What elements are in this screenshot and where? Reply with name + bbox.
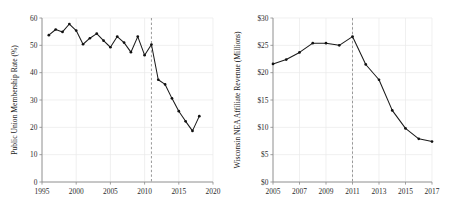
data-point [157,78,160,81]
data-point [82,43,85,46]
y-tick-label: 50 [30,41,38,50]
x-tick-label: 2010 [137,187,152,196]
y-tick-label: 40 [30,68,38,77]
data-point [123,41,126,44]
data-point [325,42,328,45]
data-point [298,51,301,54]
data-point [338,44,341,47]
data-point [285,58,288,61]
x-tick-label: 2015 [398,187,413,196]
data-point [378,78,381,81]
y-tick-label: $10 [257,123,268,132]
data-point [404,127,407,130]
x-tick-label: 2017 [425,187,440,196]
y-tick-label: 10 [30,150,38,159]
data-point [431,140,434,143]
data-point [272,63,275,66]
data-point [171,97,174,100]
data-point [198,115,201,118]
y-tick-label: $25 [257,41,268,50]
data-point [109,46,112,49]
chart-panel-left: 0102030405060199520002005201020152020Pub… [0,0,225,215]
data-point [136,35,139,38]
data-point [130,51,133,54]
data-point [391,109,394,112]
y-tick-label: $0 [261,178,269,187]
data-point [54,28,57,31]
data-point [311,42,314,45]
chart-svg: 0102030405060199520002005201020152020Pub… [0,0,225,215]
data-point [102,39,105,42]
y-tick-label: 20 [30,123,38,132]
data-point [116,35,119,38]
y-axis-title: Wisconsin NEA Affiliate Revenue (Million… [233,31,242,169]
data-point [89,37,92,40]
x-tick-label: 2013 [372,187,387,196]
y-tick-label: $5 [261,150,269,159]
data-point [143,54,146,57]
data-point [364,63,367,66]
y-tick-label: $30 [257,14,268,23]
data-point [95,32,98,35]
chart-svg: $0$5$10$15$20$25$30200520072009201120132… [225,0,450,215]
x-tick-label: 2015 [171,187,186,196]
x-tick-label: 2011 [345,187,360,196]
x-tick-label: 1995 [35,187,50,196]
data-point [75,29,78,32]
plot-area: $0$5$10$15$20$25$30200520072009201120132… [233,14,440,196]
data-point [164,83,167,86]
y-tick-label: $20 [257,68,268,77]
data-point [191,130,194,133]
data-point [417,137,420,140]
y-axis-title: Public Union Membership Rate (%) [10,45,19,155]
y-tick-label: 60 [30,14,38,23]
x-tick-label: 2009 [319,187,334,196]
plot-area: 0102030405060199520002005201020152020Pub… [10,14,221,196]
x-tick-label: 2005 [103,187,118,196]
x-tick-label: 2005 [266,187,281,196]
data-point [184,120,187,123]
x-tick-label: 2020 [206,187,221,196]
data-point [351,35,354,38]
data-point [150,43,153,46]
x-tick-label: 2000 [69,187,84,196]
y-tick-label: $15 [257,96,268,105]
data-point [47,34,50,37]
data-point [61,31,64,34]
y-tick-label: 30 [30,96,38,105]
data-point [177,110,180,113]
data-point [68,23,71,26]
x-tick-label: 2007 [292,187,307,196]
figure-container: 0102030405060199520002005201020152020Pub… [0,0,451,215]
y-tick-label: 0 [34,178,38,187]
chart-panel-right: $0$5$10$15$20$25$30200520072009201120132… [225,0,450,215]
data-line [49,24,199,131]
